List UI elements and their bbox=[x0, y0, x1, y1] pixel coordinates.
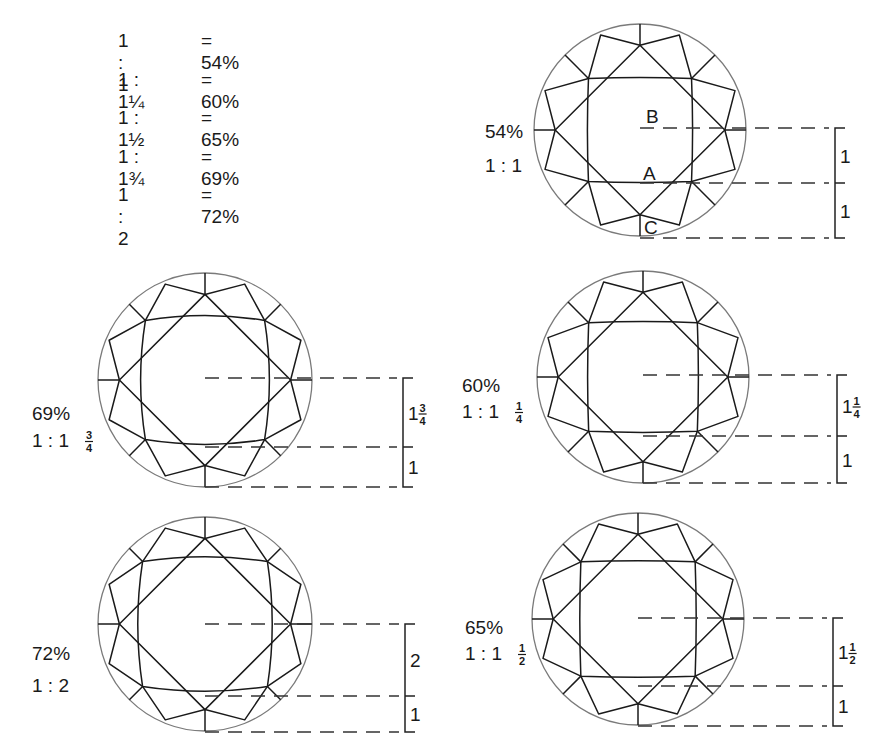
girdle-tick bbox=[697, 431, 718, 452]
ratio-whole: 1 : 2 bbox=[32, 675, 69, 696]
girdle-tick bbox=[565, 55, 588, 78]
facet-lines bbox=[534, 24, 746, 236]
girdle-tick bbox=[265, 304, 281, 320]
fraction-numerator: 3 bbox=[86, 429, 92, 441]
girdle-tick bbox=[129, 304, 145, 320]
girdle-tick bbox=[695, 544, 713, 562]
lower-segment-label: 1 bbox=[842, 450, 853, 471]
girdle-tick bbox=[129, 548, 142, 561]
diamond-diagram-54-percent: 1154%1 : 1BAC bbox=[485, 24, 851, 238]
fraction-denominator: 2 bbox=[519, 655, 525, 667]
ratio-whole: 1 bbox=[842, 396, 853, 417]
fraction-denominator: 4 bbox=[516, 413, 523, 425]
upper-segment-label: 112 bbox=[838, 641, 857, 666]
girdle-tick bbox=[697, 302, 718, 323]
lower-segment-label: 1 bbox=[408, 457, 419, 478]
brilliant-cut-diagrams: 1154%1 : 1BAC134169%1 : 134114160%1 : 11… bbox=[0, 0, 895, 756]
ratio-whole: 1 : 1 bbox=[485, 155, 522, 176]
facet-lines bbox=[537, 271, 749, 483]
facet-lines bbox=[532, 513, 744, 725]
girdle-tick bbox=[692, 182, 715, 205]
table-percent-label: 72% bbox=[32, 643, 70, 664]
table-outline bbox=[141, 316, 270, 445]
lower-segment-label: 1 bbox=[840, 201, 851, 222]
ratio-whole: 1 : 1 bbox=[32, 430, 69, 451]
ratio-label: 1 : 112 bbox=[465, 642, 526, 667]
lower-segment-label: 1 bbox=[410, 704, 421, 725]
fraction-denominator: 4 bbox=[854, 408, 861, 420]
point-label-c: C bbox=[644, 217, 658, 238]
girdle-tick bbox=[568, 431, 589, 452]
girdle-tick bbox=[563, 544, 581, 562]
ratio-whole: 1 : 1 bbox=[465, 643, 502, 664]
fraction-denominator: 2 bbox=[850, 654, 856, 666]
upper-segment-label: 114 bbox=[842, 395, 861, 420]
ratio-whole: 1 : 1 bbox=[462, 401, 499, 422]
fraction-denominator: 4 bbox=[420, 415, 427, 427]
girdle-tick bbox=[563, 676, 581, 694]
upper-segment-label: 1 bbox=[840, 146, 851, 167]
table-percent-label: 69% bbox=[32, 403, 70, 424]
ratio-label: 1 : 1 bbox=[485, 155, 522, 176]
ratio-whole: 2 bbox=[410, 650, 421, 671]
girdle-tick bbox=[568, 302, 589, 323]
fraction-numerator: 1 bbox=[519, 642, 525, 654]
ratio-label: 1 : 2 bbox=[32, 675, 69, 696]
table-outline bbox=[580, 561, 696, 677]
table-percent-label: 54% bbox=[485, 121, 523, 142]
diamond-diagram-65-percent: 112165%1 : 112 bbox=[465, 513, 857, 726]
girdle-tick bbox=[129, 440, 145, 456]
girdle-tick bbox=[695, 676, 713, 694]
ratio-whole: 1 bbox=[408, 403, 419, 424]
diamond-diagram-60-percent: 114160%1 : 114 bbox=[462, 271, 861, 483]
diamond-diagram-72-percent: 2172%1 : 2 bbox=[32, 517, 421, 732]
point-label-a: A bbox=[643, 163, 656, 184]
upper-segment-label: 2 bbox=[410, 650, 421, 671]
fraction-denominator: 4 bbox=[86, 442, 93, 454]
measurement-bracket bbox=[835, 128, 845, 238]
girdle-tick bbox=[267, 686, 280, 699]
table-percent-label: 60% bbox=[462, 375, 500, 396]
girdle-tick bbox=[129, 686, 142, 699]
diamond-diagram-69-percent: 134169%1 : 134 bbox=[32, 273, 427, 487]
fraction-numerator: 1 bbox=[516, 400, 522, 412]
ratio-whole: 1 bbox=[840, 146, 851, 167]
fraction-numerator: 1 bbox=[854, 395, 860, 407]
lower-segment-label: 1 bbox=[838, 696, 849, 717]
ratio-label: 1 : 134 bbox=[32, 429, 93, 454]
girdle-tick bbox=[267, 548, 280, 561]
upper-segment-label: 134 bbox=[408, 402, 427, 427]
fraction-numerator: 1 bbox=[850, 641, 856, 653]
ratio-label: 1 : 114 bbox=[462, 400, 523, 425]
table-outline bbox=[587, 77, 692, 182]
table-percent-label: 65% bbox=[465, 617, 503, 638]
girdle-tick bbox=[565, 182, 588, 205]
fraction-numerator: 3 bbox=[420, 402, 426, 414]
table-outline bbox=[588, 322, 699, 433]
girdle-tick bbox=[692, 55, 715, 78]
point-label-b: B bbox=[646, 106, 659, 127]
facet-lines bbox=[98, 273, 312, 487]
ratio-whole: 1 bbox=[838, 642, 849, 663]
